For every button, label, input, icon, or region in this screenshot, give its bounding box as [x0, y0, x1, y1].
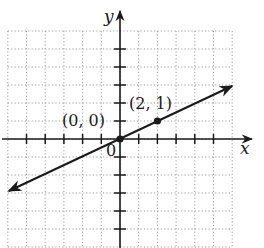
- y-axis-label: y: [103, 6, 114, 26]
- data-point: [116, 135, 123, 142]
- origin-label: 0: [106, 141, 116, 160]
- point-label-origin: (0, 0): [62, 111, 105, 130]
- point-label-2-1: (2, 1): [129, 94, 172, 113]
- data-point: [154, 117, 161, 124]
- x-axis-label: x: [240, 138, 250, 158]
- axes: [2, 11, 252, 248]
- coordinate-plane-chart: x y 0 (0, 0) (2, 1): [0, 0, 264, 248]
